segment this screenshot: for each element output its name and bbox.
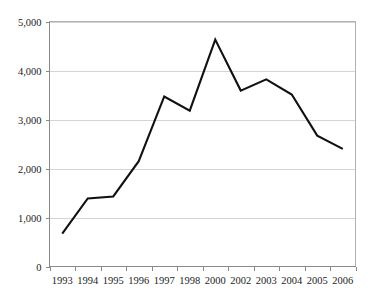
line-chart: 01,0002,0003,0004,0005,000 1993199419951… xyxy=(0,0,375,304)
y-axis-tick-label: 1,000 xyxy=(18,213,42,224)
x-axis-tick-label: 1998 xyxy=(179,275,200,286)
x-axis-tick-label: 2005 xyxy=(307,275,328,286)
x-axis-tick-label: 2002 xyxy=(230,275,251,286)
y-axis-tick-label: 2,000 xyxy=(18,164,42,175)
chart-canvas: 01,0002,0003,0004,0005,000 1993199419951… xyxy=(0,0,375,304)
x-axis-tick-label: 1997 xyxy=(154,275,175,286)
y-axis-tick-label: 5,000 xyxy=(18,17,42,28)
x-axis-tick-label: 2000 xyxy=(205,275,226,286)
y-axis-tick-label: 0 xyxy=(36,262,41,273)
x-axis-tick-label: 1996 xyxy=(128,275,149,286)
y-axis-tick-label: 4,000 xyxy=(18,66,42,77)
x-axis-tick-label: 1995 xyxy=(103,275,124,286)
x-axis-tick-label: 2004 xyxy=(281,275,303,286)
chart-background xyxy=(0,0,375,304)
x-axis-tick-label: 1994 xyxy=(77,275,99,286)
x-axis-tick-label: 2006 xyxy=(332,275,353,286)
x-axis-tick-label: 1993 xyxy=(52,275,73,286)
x-axis-tick-label: 2003 xyxy=(256,275,277,286)
y-axis-tick-label: 3,000 xyxy=(18,115,42,126)
